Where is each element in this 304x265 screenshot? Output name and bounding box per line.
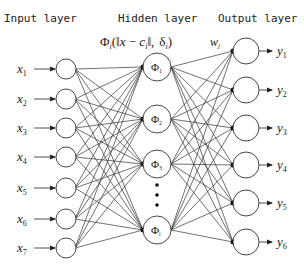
input-node bbox=[56, 178, 76, 198]
input-node bbox=[56, 118, 76, 138]
input-label: x7 bbox=[16, 240, 27, 257]
output-node bbox=[233, 229, 259, 255]
output-node bbox=[233, 77, 259, 103]
weight-label: wj bbox=[210, 35, 220, 50]
input-label: x5 bbox=[16, 180, 27, 197]
output-label: y5 bbox=[275, 195, 287, 212]
output-label: y1 bbox=[275, 43, 287, 60]
input-node bbox=[56, 89, 76, 109]
input-node bbox=[56, 59, 76, 79]
input-label: x3 bbox=[16, 120, 27, 137]
hidden-layer-title: Hidden layer bbox=[118, 12, 198, 25]
input-node bbox=[56, 147, 76, 167]
output-layer-title: Output layer bbox=[218, 12, 298, 25]
output-node bbox=[233, 190, 259, 216]
rbf-formula: Φi(‖x − ci‖,δi) bbox=[100, 34, 172, 51]
output-label: y6 bbox=[275, 234, 287, 251]
output-label: y4 bbox=[275, 157, 287, 174]
ellipsis-dot bbox=[155, 193, 159, 197]
output-node bbox=[233, 38, 259, 64]
input-label: x6 bbox=[16, 211, 27, 228]
input-node bbox=[56, 209, 76, 229]
output-node bbox=[233, 115, 259, 141]
input-layer-title: Input layer bbox=[4, 12, 77, 25]
output-label: y2 bbox=[275, 82, 287, 99]
input-label: x4 bbox=[16, 149, 27, 166]
input-label: x1 bbox=[16, 61, 27, 78]
ellipsis-dot bbox=[155, 203, 159, 207]
ellipsis-dot bbox=[155, 183, 159, 187]
input-label: x2 bbox=[16, 91, 27, 108]
rbf-network-diagram: Input layer Hidden layer Output layer Φi… bbox=[0, 0, 304, 265]
output-node bbox=[233, 152, 259, 178]
output-label: y3 bbox=[275, 120, 287, 137]
input-node bbox=[56, 238, 76, 258]
